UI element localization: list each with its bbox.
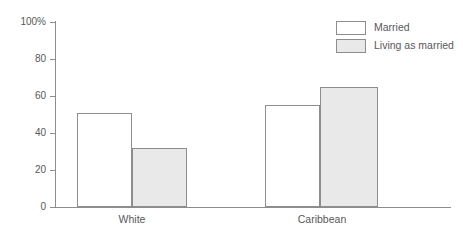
x-axis-line [55, 207, 451, 208]
legend-swatch-living [336, 39, 366, 53]
legend-label-living: Living as married [374, 40, 454, 51]
x-label-caribbean: Caribbean [298, 214, 346, 225]
legend: Married Living as married [336, 20, 454, 56]
bar-caribbean-married [265, 105, 320, 207]
y-tick-label: 0 [40, 202, 46, 212]
x-label-white: White [119, 214, 146, 225]
y-tick-label: 40 [35, 128, 46, 138]
bar-white-living [132, 148, 187, 207]
y-tick-label: 100% [20, 17, 46, 27]
y-tick-label: 80 [35, 54, 46, 64]
y-tick-label: 60 [35, 91, 46, 101]
legend-label-married: Married [374, 22, 410, 33]
legend-swatch-married [336, 21, 366, 35]
y-tick-label: 20 [35, 165, 46, 175]
bar-white-married [77, 113, 132, 207]
y-tick-mark [50, 207, 55, 208]
bar-caribbean-living [320, 87, 378, 207]
legend-item-married: Married [336, 20, 454, 35]
bar-chart: 100% 80 60 40 20 0 White Caribbean Marri… [0, 0, 463, 237]
legend-item-living: Living as married [336, 38, 454, 53]
